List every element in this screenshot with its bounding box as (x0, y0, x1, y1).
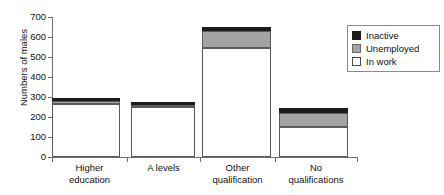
x-label-line-2: qualification (200, 174, 275, 186)
plot-area: 0100200300400500600700 (52, 17, 357, 157)
x-label-line-2: qualifications (275, 174, 357, 186)
y-tick-label-700: 700 (10, 11, 46, 22)
x-label-a-levels: A levels (127, 162, 200, 174)
legend-item-unemployed[interactable]: Unemployed (352, 42, 435, 55)
segment-in-work (52, 104, 120, 157)
segment-in-work (131, 107, 195, 157)
segment-inactive (52, 98, 120, 101)
segment-unemployed (202, 31, 271, 48)
y-tick-600 (48, 37, 52, 38)
unemployed-swatch-icon (352, 44, 361, 53)
segment-unemployed (52, 101, 120, 104)
y-tick-label-400: 400 (10, 71, 46, 82)
x-label-other-qualification: Otherqualification (200, 162, 275, 185)
y-tick-700 (48, 17, 52, 18)
y-tick-400 (48, 77, 52, 78)
segment-unemployed (279, 113, 348, 127)
segment-inactive (202, 27, 271, 31)
y-tick-label-200: 200 (10, 111, 46, 122)
x-tick-4 (357, 157, 358, 162)
y-tick-label-600: 600 (10, 31, 46, 42)
inwork-swatch-icon (352, 57, 361, 66)
bar-no-qualifications (279, 108, 348, 157)
x-label-line-1: Higher (52, 162, 127, 174)
x-label-line-1: No (275, 162, 357, 174)
x-label-line-2: education (52, 174, 127, 186)
legend-item-inactive[interactable]: Inactive (352, 29, 435, 42)
segment-unemployed (131, 105, 195, 107)
legend-label-unemployed: Unemployed (366, 43, 419, 54)
y-tick-label-500: 500 (10, 51, 46, 62)
bar-higher-education (52, 98, 120, 157)
bar-other-qualification (202, 27, 271, 157)
segment-in-work (279, 127, 348, 157)
x-label-higher-education: Highereducation (52, 162, 127, 185)
y-tick-label-0: 0 (10, 151, 46, 162)
y-tick-label-100: 100 (10, 131, 46, 142)
x-label-no-qualifications: Noqualifications (275, 162, 357, 185)
stacked-bar-chart-figure: Numbers of males 0100200300400500600700 … (0, 0, 444, 195)
bar-a-levels (131, 102, 195, 157)
y-tick-label-300: 300 (10, 91, 46, 102)
legend-box: Inactive Unemployed In work (347, 25, 440, 72)
x-label-line-1: Other (200, 162, 275, 174)
x-label-line-1: A levels (127, 162, 200, 174)
legend-label-inactive: Inactive (366, 30, 399, 41)
segment-inactive (131, 102, 195, 105)
x-axis-line (52, 157, 358, 158)
segment-inactive (279, 108, 348, 113)
inactive-swatch-icon (352, 31, 361, 40)
legend-label-inwork: In work (366, 56, 397, 67)
legend-item-inwork[interactable]: In work (352, 55, 435, 68)
segment-in-work (202, 48, 271, 157)
y-tick-500 (48, 57, 52, 58)
